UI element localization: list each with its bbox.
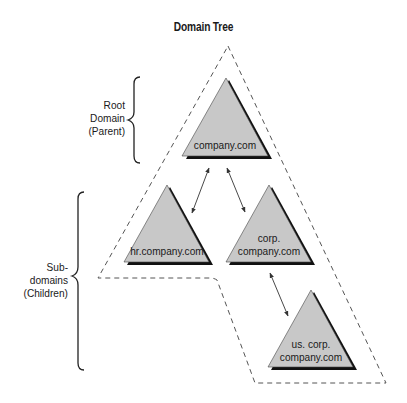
node-hr-label: hr.company.com	[127, 245, 206, 258]
edge-root-corp	[227, 168, 245, 212]
label-line: company.com	[271, 351, 350, 364]
label-line: domains	[8, 274, 68, 287]
label-line: company.com	[229, 245, 308, 258]
node-root-label: company.com	[185, 139, 264, 152]
root-brace	[128, 77, 140, 163]
edge-corp-us-corp	[270, 273, 288, 316]
edge-root-hr	[192, 168, 209, 213]
label-line: us. corp.	[271, 338, 350, 351]
diagram-title: Domain Tree	[31, 20, 377, 34]
label-line: company.com	[185, 139, 264, 152]
node-corp-label: corp. company.com	[229, 232, 308, 258]
node-us-corp-label: us. corp. company.com	[271, 338, 350, 364]
label-line: (Children)	[8, 287, 68, 300]
label-line: Domain	[68, 112, 125, 125]
label-line: Sub-	[8, 261, 68, 274]
root-domain-label: Root Domain (Parent)	[68, 99, 125, 138]
label-line: Root	[68, 99, 125, 112]
label-line: (Parent)	[68, 125, 125, 138]
subdomains-brace	[72, 192, 84, 370]
subdomains-label: Sub- domains (Children)	[8, 261, 68, 300]
domain-tree-boundary	[98, 46, 386, 383]
label-line: corp.	[229, 232, 308, 245]
label-line: hr.company.com	[127, 245, 206, 258]
